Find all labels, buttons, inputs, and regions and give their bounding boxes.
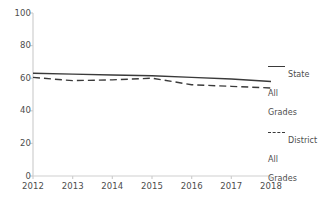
y-tick-label: 100: [5, 9, 31, 18]
x-tick-label: 2014: [92, 181, 132, 191]
x-tick-label: 2012: [13, 181, 53, 191]
chart-legend: State All GradesDistrict All Grades: [268, 62, 327, 194]
x-tick-label: 2015: [132, 181, 172, 191]
y-tick-label: 80: [5, 41, 31, 50]
line-chart: 020406080100 201220132014201520162017201…: [0, 0, 327, 199]
legend-label: District All Grades: [268, 136, 317, 183]
legend-entry[interactable]: State All Grades: [268, 62, 327, 119]
y-tick-label: 20: [5, 139, 31, 148]
legend-line-swatch-icon: [268, 66, 285, 67]
x-tick-label: 2017: [211, 181, 251, 191]
y-tick-label: 0: [5, 172, 31, 181]
y-tick-label: 40: [5, 106, 31, 115]
data-series-group: [33, 73, 271, 88]
y-tick-label: 60: [5, 74, 31, 83]
legend-line-swatch-icon: [268, 132, 285, 133]
x-tick-label: 2013: [53, 181, 93, 191]
x-tick-label: 2016: [172, 181, 212, 191]
legend-label: State All Grades: [268, 70, 309, 117]
y-axis-tick-labels: 020406080100: [2, 0, 31, 199]
legend-entry[interactable]: District All Grades: [268, 128, 327, 185]
